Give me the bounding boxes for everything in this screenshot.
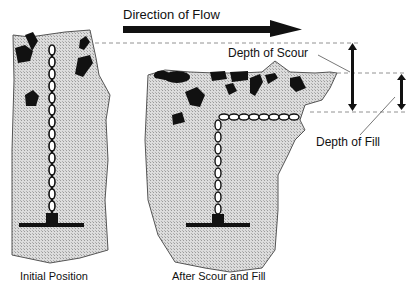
anchor-plate-icon — [19, 223, 84, 227]
flow-label: Direction of Flow — [123, 8, 220, 21]
flow-arrow-icon — [123, 20, 302, 37]
initial-label: Initial Position — [20, 271, 88, 282]
depth-arrows — [348, 43, 406, 111]
initial-sediment-column — [12, 30, 110, 263]
scour-label: Depth of Scour — [228, 47, 308, 59]
after-sediment-column — [145, 61, 337, 272]
fill-label: Depth of Fill — [316, 136, 380, 148]
after-label: After Scour and Fill — [172, 271, 266, 282]
